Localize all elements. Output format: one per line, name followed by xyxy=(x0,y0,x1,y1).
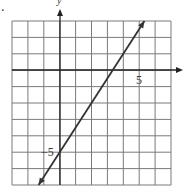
y-axis-label: y xyxy=(57,0,61,6)
y-tick-label-neg5: −5 xyxy=(41,146,54,158)
x-axis-arrow-icon xyxy=(176,67,183,73)
y-axis-arrow-icon xyxy=(57,9,63,16)
coordinate-plane xyxy=(0,0,187,192)
marker-dot: . xyxy=(1,0,5,14)
x-tick-label-5: 5 xyxy=(136,74,142,86)
